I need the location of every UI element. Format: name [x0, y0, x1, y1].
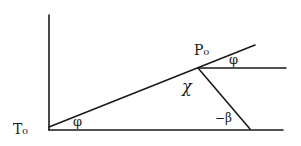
angle-chi-label: χ [181, 77, 193, 96]
angle-phi-top-label: φ [229, 52, 238, 67]
angle-beta-label: −β [215, 111, 232, 125]
point-p0-label: P₀ [194, 42, 209, 58]
geometry-diagram: T₀ φ P₀ φ χ −β [0, 0, 301, 146]
origin-label: T₀ [13, 121, 28, 137]
angle-phi-bottom-label: φ [73, 114, 82, 129]
